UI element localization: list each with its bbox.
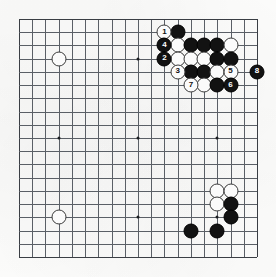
stone-move-3[interactable]: 3 [170,64,185,79]
stone-black[interactable] [223,210,238,225]
stone-black[interactable] [183,223,198,238]
stone-move-8[interactable]: 8 [249,64,264,79]
stone-move-number: 1 [162,28,166,36]
grid-line-horizontal [19,125,257,126]
goban-grid[interactable]: 14235876 [19,19,257,258]
star-point [216,136,219,139]
go-board-diagram: 14235876 [0,0,276,277]
star-point [136,57,139,60]
grid-line-horizontal [19,164,257,165]
grid-line-horizontal [19,98,257,99]
stone-white[interactable] [51,51,66,66]
star-point [57,136,60,139]
star-point [216,216,219,219]
stone-move-number: 3 [175,68,179,76]
grid-line-horizontal [19,257,257,258]
stone-move-2[interactable]: 2 [157,51,172,66]
stone-move-number: 8 [255,68,259,76]
stone-move-number: 5 [228,68,232,76]
stone-black[interactable] [210,223,225,238]
grid-line-vertical [257,19,258,257]
stone-move-number: 6 [228,81,232,89]
grid-line-horizontal [19,178,257,179]
stone-move-number: 2 [162,54,166,62]
grid-line-horizontal [19,19,257,20]
stone-move-number: 7 [189,81,193,89]
stone-move-number: 4 [162,41,166,49]
grid-line-horizontal [19,112,257,113]
grid-line-horizontal [19,32,257,33]
star-point [136,136,139,139]
stone-move-6[interactable]: 6 [223,78,238,93]
stone-white[interactable] [51,210,66,225]
star-point [136,216,139,219]
stone-move-7[interactable]: 7 [183,78,198,93]
grid-line-horizontal [19,151,257,152]
grid-line-horizontal [19,244,257,245]
